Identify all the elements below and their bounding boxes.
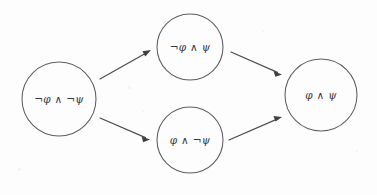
edge-top-to-right (231, 52, 278, 72)
node-not-phi-and-not-psi[interactable]: ¬φ ∧ ¬ψ (22, 62, 96, 136)
node-not-phi-and-not-psi-label: ¬φ ∧ ¬ψ (34, 93, 84, 105)
edge-left-to-top-group (100, 50, 151, 79)
edge-left-to-bottom-group (100, 118, 150, 142)
node-not-phi-and-psi-label: ¬φ ∧ ψ (170, 41, 211, 53)
transition-diagram: ¬φ ∧ ¬ψ ¬φ ∧ ψ φ ∧ ¬ψ φ ∧ ψ (0, 0, 377, 195)
node-phi-and-not-psi[interactable]: φ ∧ ¬ψ (157, 107, 223, 173)
edge-left-to-top-arrowhead (142, 50, 151, 56)
edge-bottom-to-right (229, 119, 278, 140)
node-not-phi-and-psi[interactable]: ¬φ ∧ ψ (157, 14, 223, 80)
node-phi-and-psi[interactable]: φ ∧ ψ (285, 59, 357, 131)
edge-left-to-top (100, 53, 147, 79)
diagram-canvas: ¬φ ∧ ¬ψ ¬φ ∧ ψ φ ∧ ¬ψ φ ∧ ψ (0, 0, 377, 195)
edge-top-to-right-group (231, 52, 282, 77)
node-phi-and-psi-label: φ ∧ ψ (305, 89, 337, 101)
node-phi-and-not-psi-label: φ ∧ ¬ψ (170, 134, 211, 146)
edge-bottom-to-right-group (229, 116, 282, 140)
edge-left-to-bottom (100, 118, 146, 138)
